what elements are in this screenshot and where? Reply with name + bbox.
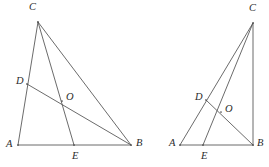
right-triangle-point-label-o: O bbox=[225, 104, 233, 115]
left-triangle-point-label-e: E bbox=[72, 151, 78, 162]
right-triangle-vertex-dot-e bbox=[202, 144, 204, 146]
left-triangle-vertex-dot-a bbox=[17, 144, 19, 146]
right-triangle-vertex-dot-o bbox=[220, 111, 222, 113]
left-triangle-point-label-a: A bbox=[6, 139, 12, 150]
left-triangle-side-CB bbox=[38, 22, 131, 145]
geometry-vertex-group bbox=[17, 21, 254, 146]
left-triangle-point-label-c: C bbox=[29, 2, 36, 13]
right-triangle-side-AC bbox=[180, 23, 253, 145]
left-triangle-vertex-dot-c bbox=[37, 21, 39, 23]
geometry-svg bbox=[0, 0, 269, 167]
right-triangle-cevian-CE bbox=[203, 23, 253, 145]
right-triangle-point-label-e: E bbox=[201, 151, 207, 162]
right-triangle-point-label-c: C bbox=[249, 3, 256, 14]
right-triangle-vertex-dot-b bbox=[252, 144, 254, 146]
left-triangle-vertex-dot-b bbox=[130, 144, 132, 146]
right-triangle-point-label-b: B bbox=[257, 138, 263, 149]
geometry-line-group bbox=[18, 22, 253, 145]
left-triangle-cevian-CE bbox=[38, 22, 74, 145]
right-triangle-vertex-dot-a bbox=[179, 144, 181, 146]
left-triangle-vertex-dot-o bbox=[61, 100, 63, 102]
left-triangle-cevian-DB bbox=[27, 84, 131, 145]
right-triangle-vertex-dot-c bbox=[252, 22, 254, 24]
left-triangle-point-label-o: O bbox=[66, 92, 74, 103]
left-triangle-vertex-dot-d bbox=[26, 83, 28, 85]
right-triangle-vertex-dot-d bbox=[205, 99, 207, 101]
right-triangle-point-label-a: A bbox=[169, 138, 175, 149]
geometry-figure-canvas: ABCDEOABCDEO bbox=[0, 0, 269, 167]
left-triangle-point-label-d: D bbox=[16, 76, 24, 87]
left-triangle-vertex-dot-e bbox=[73, 144, 75, 146]
right-triangle-point-label-d: D bbox=[195, 92, 203, 103]
left-triangle-point-label-b: B bbox=[136, 138, 142, 149]
